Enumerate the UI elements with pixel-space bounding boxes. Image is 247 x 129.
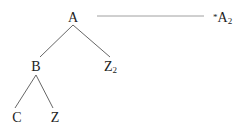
node-a: A [68,10,79,25]
node-z2: Z2 [104,59,117,75]
edge-a-z2 [73,25,110,57]
edge-b-c [15,75,36,108]
edge-a-b [40,25,73,57]
syntax-tree-diagram: A B Z2 C Z *A2 [0,0,247,129]
node-c: C [12,110,21,125]
edge-b-z [36,75,53,108]
node-b: B [31,59,40,74]
node-z: Z [51,110,60,125]
annotation-star-a2: *A2 [213,10,232,26]
